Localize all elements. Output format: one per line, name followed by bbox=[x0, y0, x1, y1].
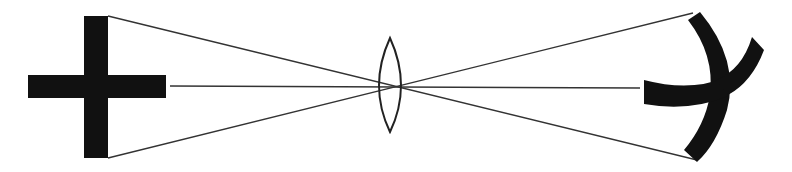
object-cross bbox=[28, 16, 166, 158]
lens-imaging-diagram: Lens imaging of a cross showing curvatur… bbox=[0, 0, 792, 172]
diagram-canvas bbox=[0, 0, 792, 172]
ray-axis bbox=[170, 86, 640, 88]
light-rays bbox=[108, 13, 697, 160]
cross-horizontal-bar bbox=[28, 75, 166, 98]
image-curved-cross bbox=[644, 12, 764, 162]
